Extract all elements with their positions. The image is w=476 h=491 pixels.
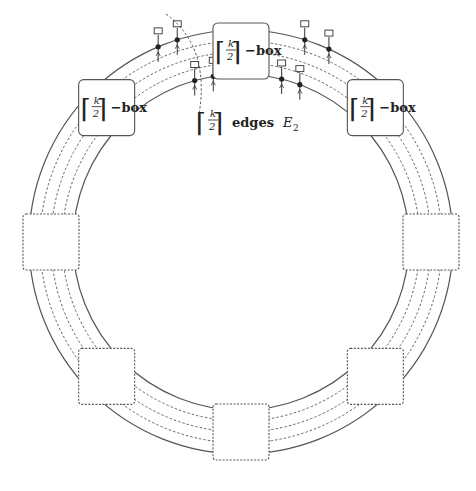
edge-terminal <box>325 30 333 64</box>
box-upper-left: ⌈k2⌉−box <box>79 80 148 136</box>
edge-terminal <box>278 60 286 94</box>
box-label: −box <box>245 43 282 58</box>
box-label: −box <box>111 100 148 115</box>
edge-terminal <box>154 28 162 62</box>
ceil-bracket-right: ⌉ <box>365 94 375 124</box>
box-lower-left <box>79 348 135 404</box>
edge-terminal <box>191 62 199 96</box>
box-label: −box <box>379 100 416 115</box>
edge-terminal <box>301 21 309 55</box>
ceil-bracket-right: ⌉ <box>213 108 223 138</box>
boxes: ⌈k2⌉−box⌈k2⌉−box⌈k2⌉−box <box>23 23 459 460</box>
annotation-text: edges <box>232 115 274 130</box>
ceil-bracket-left: ⌈ <box>349 94 359 124</box>
edge-terminal <box>296 66 304 100</box>
annotation-subscript: 2 <box>293 123 299 133</box>
ceil-bracket-right: ⌉ <box>97 94 107 124</box>
annotation-label: ⌈ k 2 ⌉ edges E 2 <box>196 108 299 138</box>
box-top: ⌈k2⌉−box <box>213 23 282 79</box>
box-lower-right <box>347 348 403 404</box>
box-left <box>23 214 79 270</box>
edge-terminal <box>173 21 181 55</box>
ring-diagram: ⌈k2⌉−box⌈k2⌉−box⌈k2⌉−box ⌈ k 2 ⌉ edges E… <box>0 0 476 491</box>
ceil-bracket-left: ⌈ <box>196 108 206 138</box>
ceil-bracket-left: ⌈ <box>215 37 225 67</box>
annotation-symbol: E <box>282 115 293 130</box>
box-bottom <box>213 404 269 460</box>
box-right <box>403 214 459 270</box>
ceil-bracket-right: ⌉ <box>231 37 241 67</box>
ceil-bracket-left: ⌈ <box>81 94 91 124</box>
